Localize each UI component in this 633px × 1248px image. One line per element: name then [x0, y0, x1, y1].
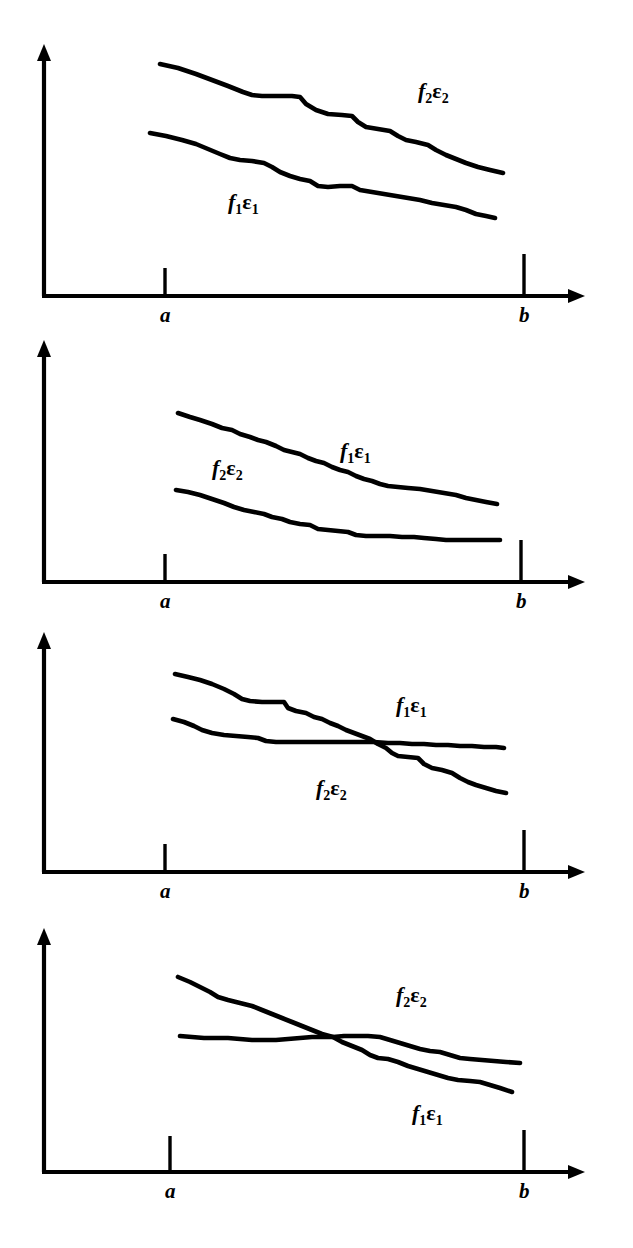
- curve-label-f2e2-panel-3: f2ε2: [316, 775, 347, 803]
- label-f-subscript: 2: [219, 468, 226, 483]
- label-epsilon-subscript: 2: [420, 995, 427, 1010]
- label-f-subscript: 2: [425, 91, 432, 106]
- curve-f1e1-panel-1: [150, 133, 495, 218]
- tick-label-b-panel-4: b: [519, 1179, 530, 1203]
- curve-label-f1e1-panel-2: f1ε1: [340, 438, 371, 466]
- label-epsilon-symbol: ε: [226, 455, 235, 480]
- label-f-subscript: 1: [419, 1113, 426, 1128]
- curve-f2e2-panel-4: [180, 1036, 520, 1063]
- label-epsilon-subscript: 2: [442, 91, 449, 106]
- curve-label-f1e1-panel-1: f1ε1: [228, 189, 259, 217]
- y-axis-arrow-icon-panel-3: [37, 632, 51, 649]
- label-epsilon-symbol: ε: [432, 78, 441, 103]
- tick-label-a-panel-1: a: [160, 303, 171, 327]
- curve-label-f2e2-panel-4: f2ε2: [396, 982, 427, 1010]
- label-f-subscript: 1: [235, 202, 242, 217]
- x-axis-arrow-icon-panel-1: [568, 289, 585, 303]
- figure-svg: abf2ε2f1ε1abf1ε1f2ε2abf2ε2f1ε1abf1ε1f2ε2: [0, 0, 633, 1248]
- curve-label-f2e2-panel-2: f2ε2: [212, 455, 243, 483]
- curve-f1e1-panel-3: [173, 719, 504, 748]
- label-f-subscript: 2: [403, 995, 410, 1010]
- label-epsilon-symbol: ε: [410, 982, 419, 1007]
- y-axis-arrow-icon-panel-1: [37, 44, 51, 61]
- curve-f2e2-panel-1: [160, 64, 503, 173]
- tick-label-a-panel-4: a: [165, 1179, 176, 1203]
- label-epsilon-subscript: 1: [420, 705, 427, 720]
- tick-label-a-panel-3: a: [160, 879, 171, 903]
- panel-4-panel-4-crossing-f1-descends: abf1ε1f2ε2: [37, 928, 585, 1203]
- label-epsilon-symbol: ε: [426, 1100, 435, 1125]
- curve-label-f1e1-panel-4: f1ε1: [412, 1100, 443, 1128]
- curve-label-f2e2-panel-1: f2ε2: [418, 78, 449, 106]
- label-f-subscript: 1: [403, 705, 410, 720]
- curve-f2e2-panel-2: [176, 490, 500, 540]
- panel-2-panel-2-no-crossing-f1-above: abf1ε1f2ε2: [37, 340, 585, 613]
- y-axis-arrow-icon-panel-2: [37, 340, 51, 357]
- label-epsilon-subscript: 1: [364, 451, 371, 466]
- label-epsilon-symbol: ε: [354, 438, 363, 463]
- label-epsilon-subscript: 2: [236, 468, 243, 483]
- figure-container: abf2ε2f1ε1abf1ε1f2ε2abf2ε2f1ε1abf1ε1f2ε2: [0, 0, 633, 1248]
- x-axis-arrow-icon-panel-3: [568, 865, 585, 879]
- label-f-subscript: 2: [323, 788, 330, 803]
- label-epsilon-symbol: ε: [410, 692, 419, 717]
- x-axis-arrow-icon-panel-4: [568, 1165, 585, 1179]
- y-axis-arrow-icon-panel-4: [37, 928, 51, 945]
- label-epsilon-symbol: ε: [242, 189, 251, 214]
- tick-label-a-panel-2: a: [160, 589, 171, 613]
- label-epsilon-subscript: 1: [436, 1113, 443, 1128]
- panel-1-panel-1-no-crossing-f2-above: abf2ε2f1ε1: [37, 44, 585, 327]
- label-epsilon-symbol: ε: [330, 775, 339, 800]
- label-f-subscript: 1: [347, 451, 354, 466]
- label-epsilon-subscript: 2: [340, 788, 347, 803]
- tick-label-b-panel-3: b: [519, 879, 530, 903]
- x-axis-arrow-icon-panel-2: [568, 575, 585, 589]
- panel-3-panel-3-crossing-f2-descends: abf2ε2f1ε1: [37, 632, 585, 903]
- label-epsilon-subscript: 1: [252, 202, 259, 217]
- tick-label-b-panel-2: b: [516, 589, 527, 613]
- curve-label-f1e1-panel-3: f1ε1: [396, 692, 427, 720]
- tick-label-b-panel-1: b: [519, 303, 530, 327]
